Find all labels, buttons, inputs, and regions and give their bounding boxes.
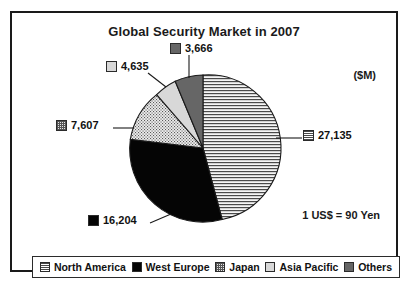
legend-item-japan[interactable]: Japan (215, 261, 259, 273)
legend-swatch-others-icon (344, 262, 354, 272)
legend-item-others[interactable]: Others (344, 261, 392, 273)
data-swatch-west-europe-icon (88, 215, 99, 226)
legend-swatch-north-america-icon (40, 262, 50, 272)
chart-legend: North America West Europe Japan Asia Pac… (32, 256, 400, 278)
legend-swatch-japan-icon (215, 262, 225, 272)
legend-label-north-america: North America (54, 261, 126, 273)
data-value-japan: 7,607 (71, 119, 99, 131)
chart-title: Global Security Market in 2007 (12, 24, 396, 39)
legend-item-asia-pacific[interactable]: Asia Pacific (265, 261, 338, 273)
exchange-rate-annotation: 1 US$ = 90 Yen (302, 209, 380, 221)
data-swatch-asia-pacific-icon (106, 61, 117, 72)
legend-label-asia-pacific: Asia Pacific (279, 261, 338, 273)
data-label-west-europe: 16,204 (88, 214, 137, 226)
data-value-others: 3,666 (185, 42, 213, 54)
data-swatch-others-icon (170, 43, 181, 54)
legend-label-west-europe: West Europe (146, 261, 210, 273)
data-swatch-north-america-icon (303, 130, 314, 141)
data-value-asia-pacific: 4,635 (121, 60, 149, 72)
unit-annotation: ($M) (353, 69, 376, 81)
data-label-japan: 7,607 (56, 119, 99, 131)
data-label-asia-pacific: 4,635 (106, 60, 149, 72)
legend-item-north-america[interactable]: North America (40, 261, 126, 273)
legend-swatch-west-europe-icon (132, 262, 142, 272)
data-label-north-america: 27,135 (303, 129, 352, 141)
legend-label-others: Others (358, 261, 392, 273)
data-swatch-japan-icon (56, 120, 67, 131)
legend-item-west-europe[interactable]: West Europe (132, 261, 210, 273)
data-value-north-america: 27,135 (318, 129, 352, 141)
data-value-west-europe: 16,204 (103, 214, 137, 226)
data-label-others: 3,666 (170, 42, 213, 54)
legend-label-japan: Japan (229, 261, 259, 273)
legend-swatch-asia-pacific-icon (265, 262, 275, 272)
